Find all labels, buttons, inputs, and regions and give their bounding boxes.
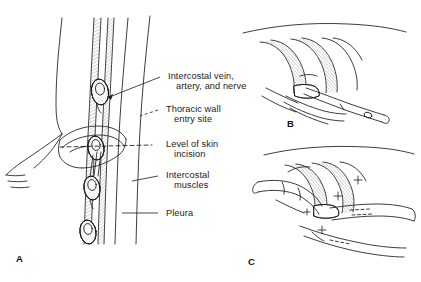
panel-letter-c: C [248, 256, 255, 267]
label-intercostal-bundle-line1: Intercostal vein, [168, 71, 234, 81]
label-pleura: Pleura [166, 208, 193, 218]
label-thoracic-wall-entry: Thoracic wallentry site [166, 104, 221, 125]
panel-a-rib-4 [78, 219, 97, 245]
leader-thoracic-entry [140, 110, 158, 116]
label-pleura-line1: Pleura [166, 208, 193, 218]
leader-intercostal-bundle [112, 77, 160, 96]
label-skin-incision-level: Level of skinincision [166, 139, 218, 160]
panel-a-arm [6, 134, 62, 188]
leader-intercostal-muscles [132, 176, 158, 181]
panel-b-skin-surface [243, 23, 406, 33]
label-skin-incision-level-line2: incision [166, 149, 218, 159]
label-intercostal-muscles: Intercostalmuscles [166, 170, 209, 191]
label-intercostal-bundle: Intercostal vein,artery, and nerve [168, 71, 246, 92]
label-thoracic-wall-entry-line1: Thoracic wall [166, 104, 221, 114]
figure-container: Intercostal vein,artery, and nerve Thora… [0, 0, 421, 282]
panel-b-artwork [243, 23, 406, 124]
panel-c-artwork [253, 146, 416, 257]
panel-c-skin-surface [264, 146, 414, 155]
panel-letter-a: A [16, 253, 23, 264]
label-intercostal-bundle-line2: artery, and nerve [168, 81, 246, 91]
panel-a-artwork [6, 16, 152, 245]
label-intercostal-muscles-line2: muscles [166, 180, 209, 190]
panel-c-lower-tissue-flap [300, 226, 406, 257]
panel-letter-b: B [287, 118, 294, 129]
label-skin-incision-level-line1: Level of skin [166, 139, 218, 149]
label-thoracic-wall-entry-line2: entry site [166, 114, 221, 124]
panel-b-lower-tissue [262, 88, 298, 112]
label-intercostal-muscles-line1: Intercostal [166, 170, 209, 180]
